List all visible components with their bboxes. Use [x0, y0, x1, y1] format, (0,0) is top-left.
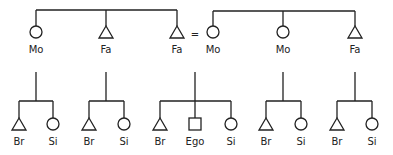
descent-line-group-3	[160, 72, 231, 118]
triangle-icon-brother	[153, 118, 167, 130]
triangle-icon-brother	[82, 118, 96, 130]
circle-icon-sister	[295, 118, 307, 130]
sibling-bar-left	[36, 10, 177, 26]
parent-label: Mo	[29, 44, 44, 55]
child-label: Br	[14, 136, 26, 147]
sibling-bar-right	[213, 11, 355, 26]
marriage-sign: =	[191, 29, 199, 40]
child-label: Si	[367, 136, 376, 147]
descent-line-group-4	[266, 72, 301, 118]
child-label: Br	[332, 136, 344, 147]
child-label: Br	[261, 136, 273, 147]
circle-icon-mother	[207, 26, 219, 38]
child-label: Si	[48, 136, 57, 147]
child-label: Br	[155, 136, 167, 147]
parent-label: Fa	[172, 44, 183, 55]
circle-icon-mother	[30, 26, 42, 38]
parent-label: Fa	[350, 44, 361, 55]
child-label: Br	[84, 136, 96, 147]
parent-label: Mo	[276, 44, 291, 55]
circle-icon-sister	[366, 118, 378, 130]
triangle-icon-brother	[12, 118, 26, 130]
child-label: Si	[296, 136, 305, 147]
circle-icon-mother	[277, 26, 289, 38]
triangle-icon-father	[99, 26, 113, 38]
parent-label: Mo	[206, 44, 221, 55]
descent-line-group-1	[19, 72, 53, 118]
square-icon-ego	[189, 118, 201, 130]
sibling-set-left	[36, 10, 177, 26]
triangle-icon-brother	[259, 118, 273, 130]
circle-icon-sister	[47, 118, 59, 130]
circle-icon-sister	[118, 118, 130, 130]
triangle-icon-father	[348, 26, 362, 38]
child-label: Si	[226, 136, 235, 147]
child-label: Si	[119, 136, 128, 147]
kinship-diagram: = Mo Fa Fa Mo Mo Fa Br Si Br Si Br Ego S…	[0, 0, 393, 155]
sibling-set-right	[213, 11, 355, 26]
triangle-icon-father	[170, 26, 184, 38]
descent-line-group-2	[89, 72, 124, 118]
parent-label: Fa	[101, 44, 112, 55]
circle-icon-sister	[225, 118, 237, 130]
triangle-icon-brother	[330, 118, 344, 130]
ego-label: Ego	[186, 136, 205, 147]
descent-line-group-5	[337, 72, 372, 118]
